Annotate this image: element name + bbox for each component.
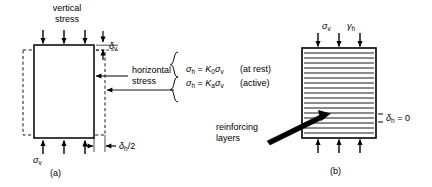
equation-active-K-sub: a [211,82,215,89]
delta-h-zero-subscript: h [391,117,395,124]
horizontal-stress-label-line1: horizontal [132,65,171,76]
equation-at-rest-sigma-v-sub: v [220,68,223,75]
equation-active-sigma-h-sub: h [191,82,195,89]
vertical-stress-arrows-bottom [43,141,85,155]
equation-active-note: (active) [240,78,270,89]
equation-at-rest-equals: = [195,64,205,74]
vertical-stress-arrows-bottom-b [318,140,360,154]
horizontal-stress-label-line2: stress [132,76,156,87]
vertical-stress-label-line1: vertical [39,3,95,14]
equation-at-rest-sigma-h-sub: h [191,68,195,75]
panel-b-caption: (b) [330,166,341,176]
reinforcing-layers-label-line1: reinforcing [216,122,258,133]
delta-h-half-label: δh/2 [119,141,135,152]
panel-a-drawing [23,30,174,154]
equation-at-rest: σh = K0σv [186,64,224,75]
equation-at-rest-note: (at rest) [240,64,271,75]
delta-v-subscript: v [114,45,117,52]
sigma-v-label-b: σv [322,21,331,32]
vertical-stress-arrows-top-b [318,33,360,47]
sigma-v-subscript-a: v [38,159,41,166]
delta-h-half-tail: /2 [128,141,136,151]
delta-h-half-subscript: h [124,145,128,152]
sigma-v-subscript-b: v [327,25,330,32]
equation-active-sigma-v-sub: v [220,82,223,89]
delta-h-zero-tail: = 0 [395,113,410,123]
equation-active-equals: = [195,78,205,88]
delta-v-label: δv [109,41,117,52]
equation-brace [171,52,179,102]
equation-active: σh = Kaσv [186,78,224,89]
gamma-h-symbol: γ [347,21,352,31]
vertical-stress-label-line2: stress [39,14,95,25]
reinforcing-layers-label-line2: layers [216,133,240,144]
gamma-h-label: γh [347,21,355,32]
panel-b-drawing [267,33,383,153]
delta-h-zero-tick [378,114,383,122]
panel-a-caption: (a) [50,168,61,178]
figure-drawing [0,0,432,187]
vertical-stress-arrows-top [43,30,85,44]
delta-h-zero-label: δh = 0 [386,113,410,124]
figure-container: vertical stress δv horizontal stress σv … [0,0,432,187]
soil-element-box-a [34,45,94,138]
equation-at-rest-K-sub: 0 [211,68,215,75]
gamma-h-subscript: h [352,25,356,32]
sigma-v-label-a: σv [33,155,42,166]
